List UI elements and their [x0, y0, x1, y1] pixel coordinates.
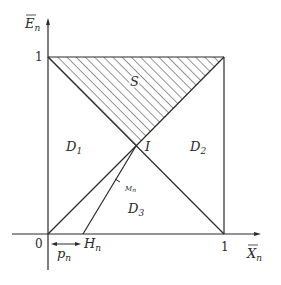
region-d2-label: D2	[189, 139, 206, 156]
x-axis-label: Xn	[246, 246, 262, 263]
point-m-label: Mn	[124, 185, 136, 193]
origin-label: 0	[35, 237, 43, 251]
y-tick-1: 1	[35, 50, 43, 64]
region-s-label: S	[130, 74, 139, 89]
point-i-label: I	[144, 139, 151, 154]
y-axis-label: En	[24, 16, 41, 33]
point-h-label: Hn	[83, 236, 101, 253]
line-origin-to-i	[48, 146, 136, 234]
x-tick-1: 1	[221, 240, 229, 254]
p-arrow-right-icon	[75, 242, 81, 246]
region-d1-label: D1	[65, 139, 82, 156]
y-axis-arrow-icon	[46, 18, 50, 25]
shaded-region-s	[48, 57, 224, 146]
diagram-canvas: En Xn 1 1 0 S D1 D2 D3 I Mn Hn pn	[0, 0, 281, 285]
p-arrow-label: pn	[57, 246, 71, 263]
x-axis-arrow-icon	[254, 232, 261, 236]
region-d3-label: D3	[127, 201, 144, 218]
